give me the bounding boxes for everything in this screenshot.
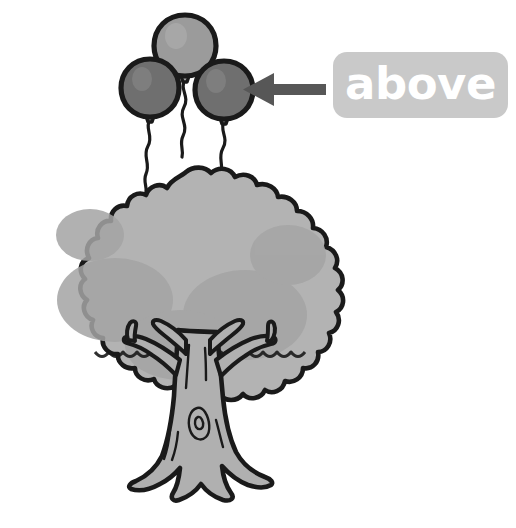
callout-label-text: above — [345, 61, 496, 106]
top-balloon-string — [181, 79, 185, 157]
top-balloon-highlight — [165, 23, 187, 49]
callout-arrow-icon — [243, 73, 326, 106]
left-balloon — [121, 59, 179, 122]
canopy-shade-4 — [250, 225, 326, 285]
right-balloon-highlight — [206, 69, 226, 93]
tree-branch-right-tip — [267, 322, 275, 341]
callout-label-box: above — [333, 52, 508, 118]
right-balloon — [195, 61, 253, 124]
illustration-scene: above — [0, 0, 516, 528]
left-balloon-body — [121, 59, 179, 117]
left-balloon-highlight — [132, 67, 152, 91]
tree-branch-left-tip — [127, 321, 136, 341]
balloon-group — [121, 15, 253, 124]
tree — [56, 168, 343, 501]
arrow-shaft — [271, 84, 326, 95]
left-balloon-string — [145, 119, 150, 192]
bark-line-2 — [205, 348, 206, 380]
canopy-shade-5 — [56, 209, 124, 261]
